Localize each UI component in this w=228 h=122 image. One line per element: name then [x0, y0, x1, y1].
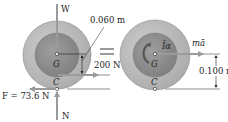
right-center-point: [153, 52, 156, 55]
equals-sign: [100, 48, 114, 55]
dimension-label-right: 0.100 m: [199, 66, 228, 76]
right-contact-label: C: [151, 77, 158, 87]
right-contact-point: [153, 87, 156, 90]
applied-force-label: 200 N: [94, 60, 121, 70]
diagram-canvas: W G 0.060 m 200 N C F = 73.6 N N: [0, 0, 228, 122]
friction-label: F = 73.6 N: [2, 91, 50, 101]
left-contact-label: C: [53, 77, 60, 87]
right-center-label: G: [151, 59, 158, 69]
weight-label: W: [61, 4, 70, 14]
left-free-body-diagram: W G 0.060 m 200 N C F = 73.6 N N: [2, 4, 125, 121]
dimension-label-left: 0.060 m: [90, 15, 125, 25]
inertia-force-label: mā: [192, 38, 205, 48]
right-kinetic-diagram: Īα G mā 0.100 m C: [120, 20, 228, 91]
normal-force-label: N: [62, 111, 70, 121]
left-center-label: G: [53, 59, 60, 69]
moment-label: Īα: [161, 40, 171, 51]
